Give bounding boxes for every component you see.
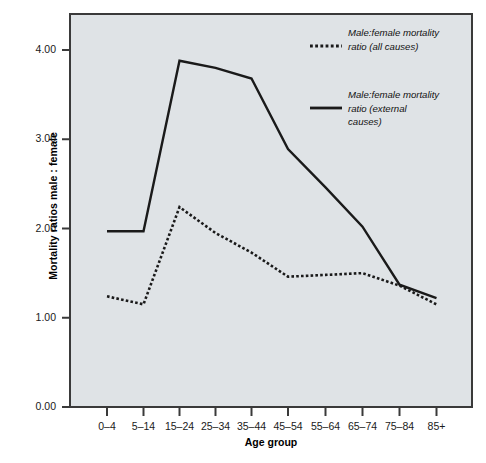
y-tick-label: 1.00	[10, 311, 56, 323]
x-axis-title: Age group	[70, 436, 472, 448]
plot-canvas	[0, 0, 486, 463]
chart-figure: Mortality ratios male : female Age group…	[0, 0, 486, 463]
plot-background	[70, 14, 472, 407]
y-tick-label: 2.00	[10, 222, 56, 234]
x-tick-label: 85+	[412, 420, 462, 432]
y-tick-label: 0.00	[10, 400, 56, 412]
legend-label-external-causes: Male:female mortality ratio (external ca…	[348, 89, 439, 127]
legend-entry-all-causes: Male:female mortality ratio (all causes)	[348, 26, 440, 53]
legend-entry-external-causes: Male:female mortality ratio (external ca…	[348, 88, 440, 129]
y-tick-label: 4.00	[10, 43, 56, 55]
legend-label-all-causes: Male:female mortality ratio (all causes)	[348, 27, 439, 52]
y-tick-label: 3.00	[10, 132, 56, 144]
